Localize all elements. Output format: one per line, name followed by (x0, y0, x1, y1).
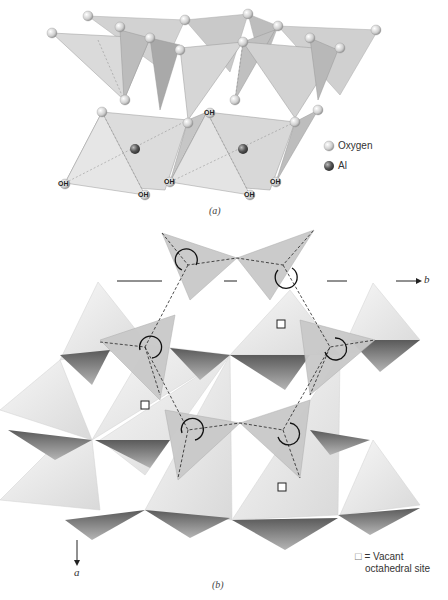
oh-label: OH (164, 178, 175, 185)
caption-a: (a) (209, 205, 221, 216)
oh-label: OH (138, 191, 149, 198)
axis-a-label: a (74, 566, 80, 578)
legend-oxygen-label: Oxygen (338, 140, 372, 151)
oh-label: OH (270, 178, 281, 185)
figure-b-structure (0, 230, 422, 566)
oh-label: OH (58, 180, 69, 187)
figure-a-structure (47, 9, 381, 200)
oh-label: OH (204, 109, 215, 116)
caption-b: (b) (212, 579, 224, 590)
vacant-site-line2: octahedral site (355, 563, 430, 574)
vacant-site-symbol: □ (355, 550, 362, 562)
axis-b-label: b (424, 273, 430, 285)
vacant-site-legend: □ = Vacant octahedral site (355, 550, 430, 575)
crystal-structure-diagram (0, 0, 448, 600)
oh-label: OH (244, 191, 255, 198)
legend-al-label: Al (338, 160, 347, 171)
vacant-site-line1: = Vacant (364, 551, 403, 562)
